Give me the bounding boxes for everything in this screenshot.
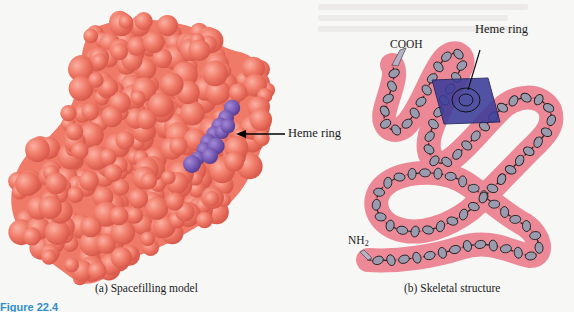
heme-ring-label-b: Heme ring <box>475 22 528 37</box>
background-text <box>318 4 528 10</box>
heme-ring-label-a: Heme ring <box>288 126 341 141</box>
skeletal-structure-panel: Heme ring COOH NH2 (b) Skeletal structur… <box>340 20 574 290</box>
nh2-label: NH2 <box>348 234 369 248</box>
skeletal-structure-image <box>340 20 574 280</box>
cooh-label: COOH <box>390 38 423 50</box>
nh2-label-subscript: 2 <box>365 239 369 248</box>
spacefilling-model-panel: Heme ring (a) Spacefilling model <box>0 0 300 300</box>
caption-spacefilling-model: (a) Spacefilling model <box>95 282 198 294</box>
spacefilling-model-image <box>0 0 300 300</box>
nh2-label-main: NH <box>348 234 365 246</box>
figure-label: Figure 22.4 <box>0 303 58 312</box>
caption-skeletal-structure: (b) Skeletal structure <box>404 282 500 294</box>
